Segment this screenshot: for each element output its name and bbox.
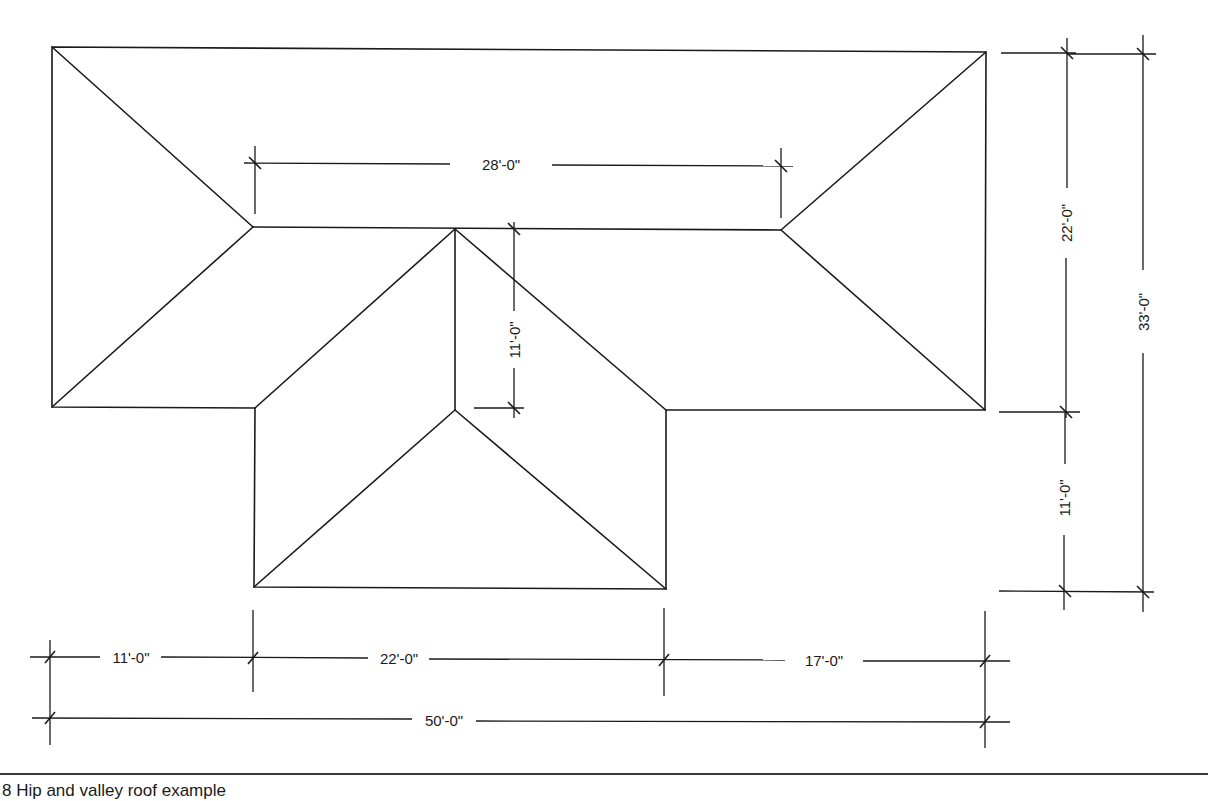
ridge-lines <box>253 227 781 410</box>
bottom-extension-lines <box>50 608 985 748</box>
dimension-label-wing-projection: 11'-0" <box>1056 479 1073 516</box>
dimension-main-depth: 22'-0" <box>999 38 1080 418</box>
dimension-label-main-depth: 22'-0" <box>1058 204 1075 242</box>
dimension-label-ridge: 28'-0" <box>482 156 520 173</box>
dimension-label-overall-depth: 33'-0" <box>1135 293 1152 331</box>
dimension-ridge-length: 28'-0" <box>244 146 793 218</box>
figure-caption: 8 Hip and valley roof example <box>2 781 226 801</box>
main-ridge-line <box>253 227 781 230</box>
roof-outline <box>52 47 986 589</box>
dimension-label-wing-ridge: 11'-0" <box>506 321 523 358</box>
valley-lines <box>255 229 666 410</box>
dimension-label-overall-width: 50'-0" <box>425 712 463 729</box>
dimension-label-right-offset: 17'-0" <box>805 652 843 669</box>
dimension-label-left-offset: 11'-0" <box>112 649 149 666</box>
dimension-wing-projection: 11'-0" <box>999 412 1154 610</box>
hip-lines <box>52 47 986 589</box>
dimension-overall-depth: 33'-0" <box>1067 35 1156 612</box>
dimension-label-wing-width: 22'-0" <box>380 650 418 667</box>
dimension-row-segments: 11'-0" 22'-0" 17'-0" <box>30 649 1010 669</box>
dimension-overall-width: 50'-0" <box>32 712 1010 729</box>
caption-separator <box>0 773 1208 775</box>
